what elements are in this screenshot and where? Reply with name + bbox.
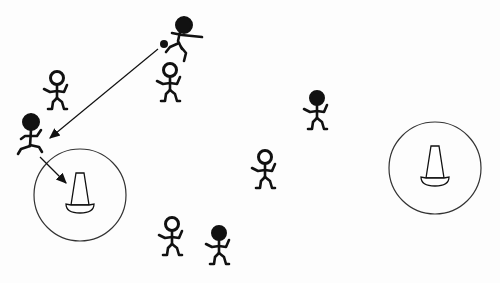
ball-icon bbox=[160, 40, 168, 48]
player-runner-icon bbox=[18, 114, 42, 154]
diagram-canvas bbox=[0, 0, 500, 283]
run-arrow-icon bbox=[40, 157, 66, 183]
player-kicker-icon bbox=[166, 17, 202, 61]
player-p7-icon bbox=[159, 218, 182, 256]
pass-arrow-icon bbox=[50, 49, 158, 138]
cone-icon bbox=[421, 146, 449, 186]
player-p8-icon bbox=[206, 227, 229, 265]
zones-layer bbox=[34, 122, 481, 241]
players-layer bbox=[18, 17, 327, 264]
drill-diagram bbox=[0, 0, 500, 283]
ball-layer bbox=[160, 40, 168, 48]
cone-icon bbox=[66, 173, 94, 213]
arrows-layer bbox=[40, 49, 158, 183]
left-zone bbox=[34, 149, 126, 241]
player-p6-icon bbox=[252, 151, 275, 189]
player-p2-icon bbox=[157, 64, 180, 102]
player-p3-icon bbox=[44, 72, 67, 110]
player-p5-icon bbox=[304, 92, 327, 130]
right-zone bbox=[389, 122, 481, 214]
